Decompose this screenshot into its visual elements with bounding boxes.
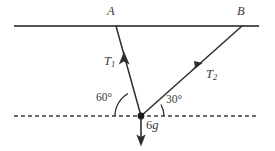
string-to-a-line bbox=[116, 26, 141, 116]
label-angle-60: 60° bbox=[96, 92, 112, 104]
label-weight-gravity-symbol: g bbox=[152, 118, 158, 132]
angle-30-arc bbox=[161, 105, 164, 117]
diagram-canvas bbox=[0, 0, 275, 151]
label-tension-2: T2 bbox=[206, 68, 217, 82]
label-point-a: A bbox=[107, 5, 115, 18]
tension-1-arrowhead bbox=[119, 52, 130, 65]
string-to-b-line bbox=[141, 26, 242, 116]
force-diagram-figure: A B T1 T2 60° 30° 6g bbox=[0, 0, 275, 151]
label-tension-1: T1 bbox=[104, 55, 115, 69]
label-angle-30: 30° bbox=[166, 94, 182, 106]
label-weight-6g: 6g bbox=[146, 119, 159, 132]
particle-node-dot bbox=[138, 113, 145, 120]
label-tension-2-symbol: T bbox=[206, 67, 213, 81]
angle-60-arc bbox=[115, 94, 128, 117]
label-tension-1-subscript: 1 bbox=[111, 59, 115, 69]
label-tension-2-subscript: 2 bbox=[213, 72, 217, 82]
label-tension-1-symbol: T bbox=[104, 54, 111, 68]
label-point-b: B bbox=[237, 5, 245, 18]
